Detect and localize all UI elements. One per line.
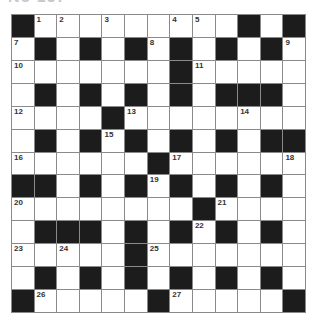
grid-cell[interactable] [102, 267, 124, 289]
grid-cell[interactable]: 1 [35, 15, 57, 37]
grid-cell[interactable] [283, 244, 305, 266]
grid-cell[interactable] [261, 244, 283, 266]
grid-cell[interactable] [35, 61, 57, 83]
grid-cell[interactable]: 18 [283, 153, 305, 175]
grid-cell[interactable] [170, 198, 192, 220]
grid-cell[interactable] [238, 130, 260, 152]
grid-cell[interactable] [102, 290, 124, 312]
grid-cell[interactable] [102, 221, 124, 243]
grid-cell[interactable]: 10 [12, 61, 34, 83]
grid-cell[interactable]: 22 [193, 221, 215, 243]
grid-cell[interactable]: 17 [170, 153, 192, 175]
grid-cell[interactable] [238, 38, 260, 60]
grid-cell[interactable] [80, 290, 102, 312]
grid-cell[interactable]: 25 [148, 244, 170, 266]
grid-cell[interactable] [57, 198, 79, 220]
grid-cell[interactable] [57, 175, 79, 197]
grid-cell[interactable] [125, 153, 147, 175]
grid-cell[interactable] [148, 130, 170, 152]
grid-cell[interactable] [216, 290, 238, 312]
grid-cell[interactable] [102, 38, 124, 60]
grid-cell[interactable] [148, 61, 170, 83]
grid-cell[interactable] [238, 61, 260, 83]
grid-cell[interactable] [12, 130, 34, 152]
grid-cell[interactable] [283, 198, 305, 220]
grid-cell[interactable] [170, 244, 192, 266]
grid-cell[interactable] [12, 267, 34, 289]
grid-cell[interactable] [35, 244, 57, 266]
grid-cell[interactable] [35, 107, 57, 129]
grid-cell[interactable]: 27 [170, 290, 192, 312]
grid-cell[interactable] [57, 130, 79, 152]
grid-cell[interactable] [12, 221, 34, 243]
grid-cell[interactable]: 20 [12, 198, 34, 220]
grid-cell[interactable] [57, 107, 79, 129]
grid-cell[interactable] [238, 290, 260, 312]
grid-cell[interactable] [125, 61, 147, 83]
grid-cell[interactable] [80, 61, 102, 83]
grid-cell[interactable]: 16 [12, 153, 34, 175]
grid-cell[interactable] [148, 84, 170, 106]
grid-cell[interactable]: 12 [12, 107, 34, 129]
grid-cell[interactable] [102, 61, 124, 83]
grid-cell[interactable] [57, 267, 79, 289]
grid-cell[interactable] [193, 267, 215, 289]
grid-cell[interactable]: 11 [193, 61, 215, 83]
grid-cell[interactable]: 7 [12, 38, 34, 60]
grid-cell[interactable] [80, 15, 102, 37]
grid-cell[interactable] [283, 267, 305, 289]
grid-cell[interactable] [35, 153, 57, 175]
grid-cell[interactable] [102, 84, 124, 106]
grid-cell[interactable] [80, 198, 102, 220]
grid-cell[interactable]: 24 [57, 244, 79, 266]
grid-cell[interactable] [148, 267, 170, 289]
grid-cell[interactable] [261, 61, 283, 83]
grid-cell[interactable] [238, 153, 260, 175]
grid-cell[interactable]: 8 [148, 38, 170, 60]
grid-cell[interactable] [57, 153, 79, 175]
grid-cell[interactable] [261, 15, 283, 37]
grid-cell[interactable] [148, 15, 170, 37]
grid-cell[interactable] [148, 107, 170, 129]
grid-cell[interactable]: 4 [170, 15, 192, 37]
grid-cell[interactable]: 2 [57, 15, 79, 37]
grid-cell[interactable] [238, 198, 260, 220]
grid-cell[interactable]: 13 [125, 107, 147, 129]
grid-cell[interactable] [35, 198, 57, 220]
grid-cell[interactable] [216, 244, 238, 266]
grid-cell[interactable]: 5 [193, 15, 215, 37]
grid-cell[interactable] [238, 175, 260, 197]
grid-cell[interactable] [193, 175, 215, 197]
grid-cell[interactable] [261, 153, 283, 175]
grid-cell[interactable]: 23 [12, 244, 34, 266]
grid-cell[interactable] [170, 107, 192, 129]
grid-cell[interactable]: 26 [35, 290, 57, 312]
grid-cell[interactable] [283, 107, 305, 129]
grid-cell[interactable]: 21 [216, 198, 238, 220]
grid-cell[interactable] [193, 153, 215, 175]
grid-cell[interactable] [57, 290, 79, 312]
grid-cell[interactable] [102, 153, 124, 175]
grid-cell[interactable] [193, 84, 215, 106]
grid-cell[interactable] [193, 38, 215, 60]
grid-cell[interactable] [193, 244, 215, 266]
grid-cell[interactable] [148, 198, 170, 220]
grid-cell[interactable] [193, 130, 215, 152]
grid-cell[interactable] [102, 175, 124, 197]
grid-cell[interactable] [283, 221, 305, 243]
grid-cell[interactable]: 3 [102, 15, 124, 37]
grid-cell[interactable] [261, 198, 283, 220]
grid-cell[interactable]: 15 [102, 130, 124, 152]
grid-cell[interactable] [238, 267, 260, 289]
grid-cell[interactable] [238, 221, 260, 243]
grid-cell[interactable] [80, 153, 102, 175]
grid-cell[interactable] [283, 175, 305, 197]
grid-cell[interactable] [148, 221, 170, 243]
grid-cell[interactable] [125, 198, 147, 220]
grid-cell[interactable] [80, 244, 102, 266]
grid-cell[interactable] [261, 107, 283, 129]
grid-cell[interactable] [283, 84, 305, 106]
grid-cell[interactable] [216, 107, 238, 129]
grid-cell[interactable] [193, 107, 215, 129]
grid-cell[interactable] [125, 290, 147, 312]
